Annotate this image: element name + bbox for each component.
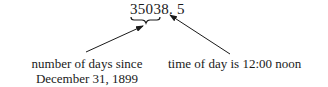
fraction-annotation: time of day is 12:00 noon — [168, 56, 301, 71]
integer-annotation-line1: number of days since — [12, 56, 162, 71]
underbrace-icon — [131, 17, 160, 23]
arrow-integer-icon — [86, 26, 143, 52]
integer-annotation-line2: December 31, 1899 — [12, 71, 162, 86]
arrow-fraction-icon — [170, 15, 230, 54]
integer-annotation: number of days since December 31, 1899 — [12, 56, 162, 86]
